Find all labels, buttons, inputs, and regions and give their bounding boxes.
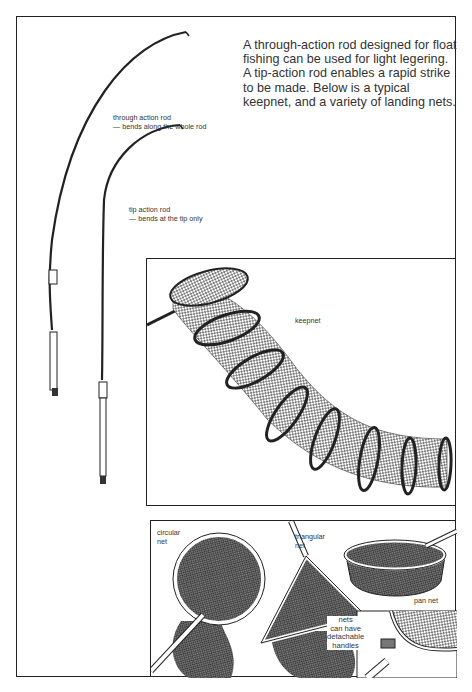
tip-action-rod-desc: — bends at the tip only <box>129 215 203 224</box>
detachable-handles-note: nets can have detachable handles <box>327 616 364 650</box>
circular-net-label-line2: net <box>157 538 180 547</box>
landing-nets-panel: circular net triangular net pan net nets… <box>150 520 456 677</box>
handles-note-line4: handles <box>327 642 364 651</box>
triangular-net-label: triangular net <box>295 533 325 550</box>
circular-net-label: circular net <box>157 529 180 546</box>
intro-paragraph: A through-action rod designed for float … <box>243 38 458 109</box>
through-action-rod-desc: — bends along the whole rod <box>113 123 207 132</box>
keepnet-illustration <box>147 259 457 507</box>
tip-action-rod-label: tip action rod — bends at the tip only <box>129 206 203 223</box>
pan-net-label: pan net <box>414 597 438 606</box>
keepnet-label: keepnet <box>295 317 321 326</box>
triangular-net-label-line2: net <box>295 542 325 551</box>
through-action-rod-label: through action rod — bends along the who… <box>113 114 207 131</box>
detachable-handle-inset <box>357 611 457 678</box>
pan-net <box>344 531 457 596</box>
keepnet-panel: keepnet <box>146 258 456 506</box>
circular-net <box>151 533 265 678</box>
